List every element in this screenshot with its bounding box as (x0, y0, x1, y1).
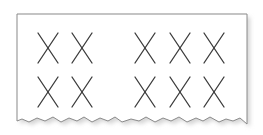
torn-paper-slip (17, 14, 247, 124)
torn-paper-figure (0, 0, 263, 135)
